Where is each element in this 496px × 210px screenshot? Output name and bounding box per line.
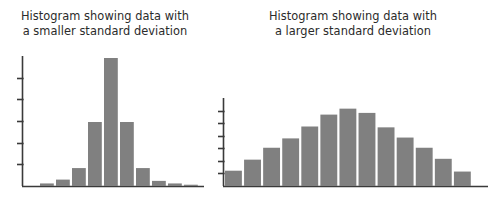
histogram-bar	[454, 172, 471, 186]
histogram-bar	[225, 171, 242, 186]
histogram-bar	[397, 138, 414, 186]
histogram-bar	[359, 113, 376, 186]
histogram-bar	[40, 183, 54, 186]
chart-title-smaller-sd: Histogram showing data witha smaller sta…	[0, 0, 210, 38]
histogram-bar	[263, 148, 280, 186]
histogram-bar	[136, 168, 150, 186]
histogram-bar	[301, 127, 318, 187]
histogram-bar	[435, 159, 452, 186]
histogram-bar	[320, 115, 337, 186]
chart-title-line1: Histogram showing data with	[269, 9, 437, 23]
histogram-bar	[88, 122, 102, 186]
histogram-bar	[244, 160, 261, 186]
histogram-bar	[72, 168, 86, 186]
histogram-bar	[339, 109, 356, 186]
histogram-bar	[120, 122, 134, 186]
histogram-bar	[282, 138, 299, 186]
chart-title-line2: a larger standard deviation	[275, 24, 431, 38]
histogram-bar	[378, 127, 395, 186]
chart-title-line2: a smaller standard deviation	[23, 24, 188, 38]
chart-title-larger-sd: Histogram showing data witha larger stan…	[210, 0, 496, 38]
histogram-bar	[168, 183, 182, 186]
histogram-bar	[184, 185, 198, 186]
histogram-bar	[152, 181, 166, 186]
histogram-bar	[416, 148, 433, 186]
histogram-bar	[104, 58, 118, 186]
panel-smaller-sd: Histogram showing data witha smaller sta…	[0, 0, 210, 210]
chart-title-line1: Histogram showing data with	[21, 9, 189, 23]
panel-larger-sd: Histogram showing data witha larger stan…	[210, 0, 496, 210]
figure-container: Histogram showing data witha smaller sta…	[0, 0, 496, 210]
histogram-bar	[56, 180, 70, 186]
